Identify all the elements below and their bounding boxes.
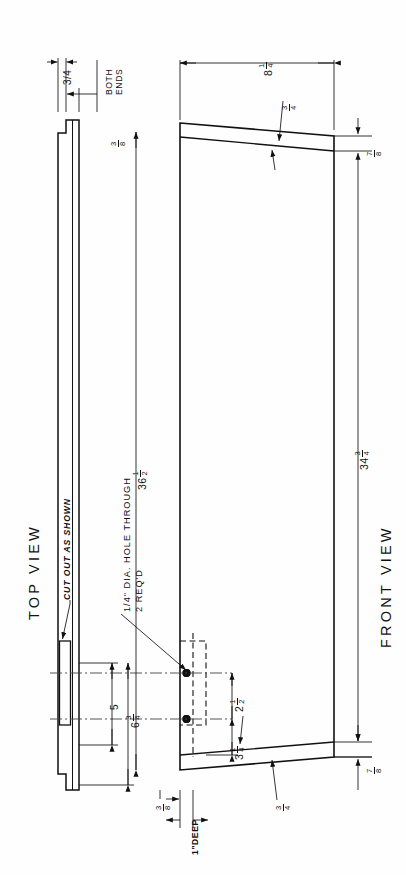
fraction-7-8-bottom: 78 xyxy=(366,767,382,774)
fraction-3-4-width: 34 xyxy=(354,450,370,457)
fraction-3-8-cutout: 38 xyxy=(155,804,171,811)
note-hole-callout-line1: 1/4" DIA. HOLE THROUGH xyxy=(122,477,132,612)
note-cut-out-as-shown: CUT OUT AS SHOWN xyxy=(62,498,72,600)
dim-1-deep xyxy=(166,812,208,828)
dim-label-2-1-2: 2 12 xyxy=(229,698,245,712)
fraction-3-4-bottom: 34 xyxy=(275,804,291,811)
whole-3: 3 xyxy=(233,754,245,760)
note-hole-callout-line2: 2 REQ'D xyxy=(134,569,144,612)
dim-thickness-top-lower xyxy=(272,150,275,170)
top-view-cutout xyxy=(60,641,71,725)
dim-label-6-3-4: 6 34 xyxy=(125,714,141,728)
front-view-bottom-face-line xyxy=(180,742,334,755)
whole-8: 8 xyxy=(262,70,274,76)
fraction-1-2: 12 xyxy=(132,470,148,477)
leader-hole-callout xyxy=(121,614,186,670)
note-both-ends-line1: BOTH xyxy=(104,69,114,95)
dim-7-8-top xyxy=(334,118,372,170)
dim-thickness-bottom xyxy=(272,760,277,800)
dim-label-cutout-3-8: 38 xyxy=(155,804,171,812)
whole-2: 2 xyxy=(233,706,245,712)
fraction-1-4-edge: 14 xyxy=(229,746,245,753)
front-view-outline xyxy=(180,123,334,770)
dim-notch-width xyxy=(47,58,77,112)
top-view-outline xyxy=(58,120,79,790)
dim-label-notch-depth: 38 xyxy=(110,140,126,148)
dim-label-thickness-bottom: 34 xyxy=(275,804,291,812)
whole-6: 6 xyxy=(129,722,141,728)
dim-label-thickness-top: 34 xyxy=(281,104,297,112)
front-view-top-face-line xyxy=(180,137,334,151)
fraction-7-8-top: 78 xyxy=(366,150,382,157)
fraction-1-4: 14 xyxy=(258,62,274,69)
dim-7-8-bottom xyxy=(334,725,372,790)
dim-notch-depth xyxy=(67,88,97,112)
front-view-hidden-cutout xyxy=(180,633,206,757)
whole-34: 34 xyxy=(358,458,370,470)
leader-cut-out xyxy=(63,600,71,639)
dim-label-7-8-top: 78 xyxy=(366,150,382,158)
note-both-ends-line2: ENDS xyxy=(114,69,124,95)
fraction-3-4-top: 34 xyxy=(281,104,297,111)
hole-centerlines xyxy=(50,673,232,719)
dim-label-34-3-4: 34 34 xyxy=(354,450,370,470)
dim-label-3-1-4: 3 14 xyxy=(229,746,245,760)
view-label-front-view: FRONT VIEW xyxy=(378,525,394,648)
fraction-1-2-holes: 12 xyxy=(229,698,245,705)
note-1-inch-deep: 1"DEEP xyxy=(190,819,200,855)
dim-thickness-bottom-upper xyxy=(240,716,243,744)
dim-label-notch-width: 3/4 xyxy=(62,70,73,85)
dim-label-8-1-4: 8 14 xyxy=(258,62,274,76)
dim-label-36-1-2: 36 12 xyxy=(132,470,148,490)
view-label-top-view: TOP VIEW xyxy=(26,524,42,620)
drawing-geometry xyxy=(0,0,406,875)
fraction-3-8: 38 xyxy=(110,140,126,147)
fraction-3-4-spacing: 34 xyxy=(125,714,141,721)
dim-8-1-4 xyxy=(180,60,334,130)
drawing-sheet: TOP VIEW FRONT VIEW BOTH ENDS CUT OUT AS… xyxy=(0,0,406,875)
whole-36: 36 xyxy=(136,478,148,490)
dim-label-7-8-bottom: 78 xyxy=(366,767,382,775)
dim-label-5: 5 xyxy=(109,704,120,710)
